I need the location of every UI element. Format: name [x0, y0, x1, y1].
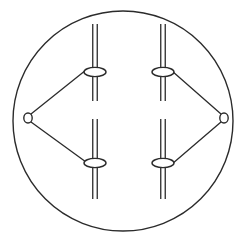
- slider-bottom-left: [84, 158, 106, 167]
- pivot-joints: [24, 113, 228, 123]
- pivot-left: [24, 113, 32, 123]
- outer-circle-housing: [13, 11, 233, 231]
- link-left-lower: [31, 122, 86, 162]
- link-right-lower: [172, 122, 221, 164]
- linkage-bars: [31, 70, 221, 164]
- vertical-rails: [93, 24, 166, 199]
- slider-bottom-right: [152, 158, 174, 167]
- slider-top-right: [152, 67, 174, 76]
- figure-canvas: [0, 0, 246, 244]
- mechanism-diagram: [0, 0, 246, 244]
- link-right-upper: [172, 71, 221, 114]
- slider-top-left: [84, 67, 106, 76]
- pivot-right: [220, 113, 228, 123]
- link-left-upper: [31, 70, 86, 114]
